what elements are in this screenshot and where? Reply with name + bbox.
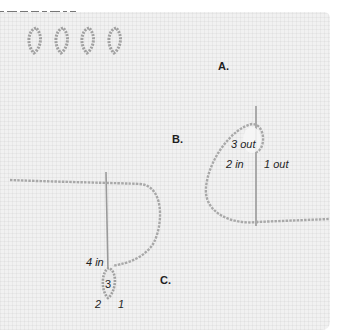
needle-c xyxy=(106,172,108,272)
point-3-out-label: 3 out xyxy=(231,138,255,150)
point-1-label: 1 xyxy=(118,298,124,310)
point-2-label: 2 xyxy=(95,298,101,310)
point-2-in-label: 2 in xyxy=(226,158,244,170)
point-3-label: 3 xyxy=(105,278,111,290)
finished-stitch-icons xyxy=(29,28,121,53)
step-c-label: C. xyxy=(160,274,171,286)
step-b-label: B. xyxy=(172,133,183,145)
thread-c xyxy=(10,180,160,266)
point-1-out-label: 1 out xyxy=(264,158,288,170)
stitch-icon xyxy=(56,28,68,53)
stitch-icon xyxy=(29,28,41,53)
point-4-in-label: 4 in xyxy=(86,256,104,268)
step-a-label: A. xyxy=(218,60,229,72)
thread-b-tail xyxy=(256,219,330,222)
stitch-icon xyxy=(82,28,94,53)
stitch-icon xyxy=(109,28,121,53)
